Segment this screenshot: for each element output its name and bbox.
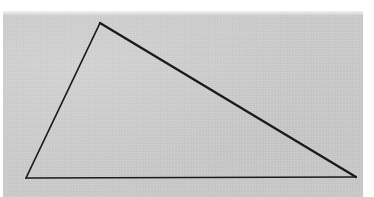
triangle-edge-base (26, 177, 356, 178)
scanned-page (0, 0, 374, 197)
triangle-edge-left-side (26, 23, 100, 178)
triangle-figure (0, 0, 374, 197)
triangle-edge-hypotenuse (100, 23, 356, 177)
